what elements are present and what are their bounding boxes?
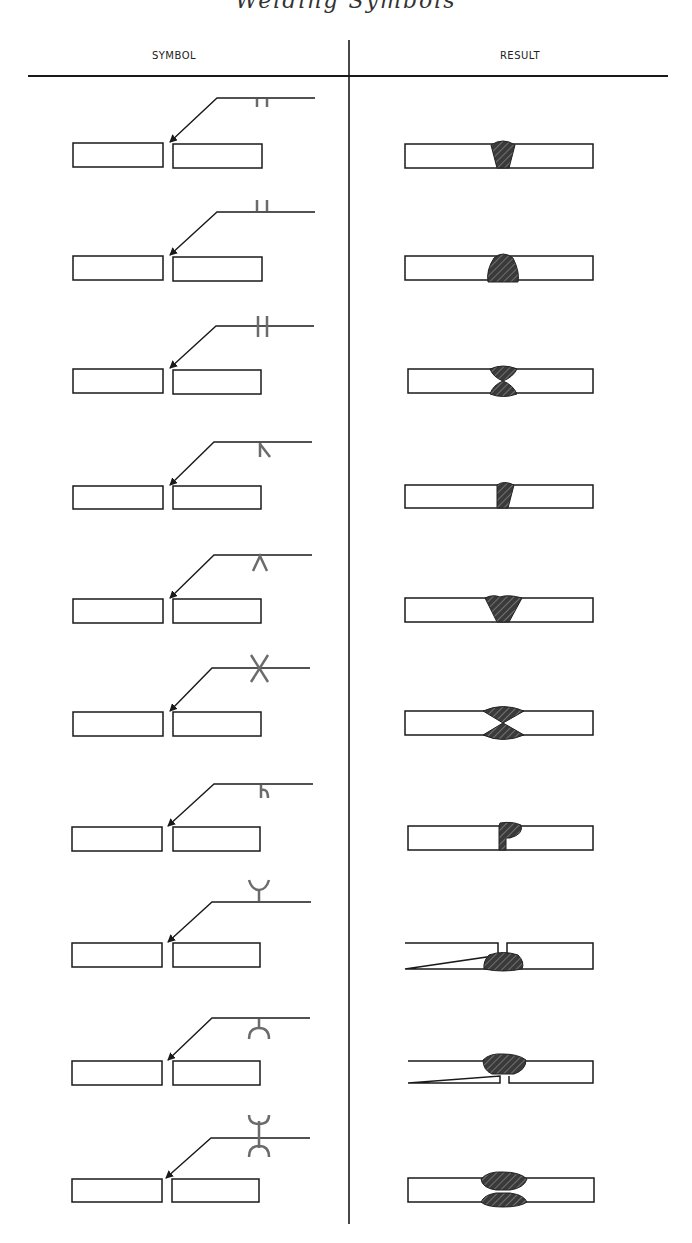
symbol-9: [72, 1018, 310, 1085]
result-1: [405, 141, 593, 168]
result-7: [408, 822, 593, 850]
result-9: [408, 1054, 593, 1083]
symbol-3: [73, 316, 314, 394]
welding-symbol-table: [0, 0, 692, 1243]
result-2: [405, 254, 593, 282]
result-8: [405, 943, 593, 971]
row-3: [73, 316, 593, 397]
j-groove-icon: [261, 785, 268, 798]
symbol-1: [73, 98, 315, 168]
result-6: [405, 707, 593, 740]
result-4: [405, 483, 593, 509]
symbol-2: [73, 200, 315, 281]
row-8: [72, 880, 593, 971]
symbol-8: [72, 880, 311, 967]
symbol-6: [73, 655, 310, 736]
v-groove-icon: [253, 556, 267, 571]
row-4: [73, 442, 593, 509]
square-groove-icon: [257, 99, 267, 107]
result-5: [405, 596, 593, 622]
u-groove-icon: [249, 1019, 269, 1039]
bevel-groove-icon: [260, 443, 270, 457]
row-6: [73, 655, 593, 740]
square-groove-other-side-icon: [257, 200, 267, 211]
row-10: [72, 1115, 594, 1207]
row-2: [73, 200, 593, 282]
symbol-7: [72, 784, 313, 851]
result-3: [408, 366, 593, 397]
row-9: [72, 1018, 593, 1085]
result-10: [408, 1172, 594, 1207]
symbol-4: [73, 442, 312, 509]
row-5: [73, 555, 593, 623]
flare-v-groove-icon: [249, 880, 269, 901]
double-u-groove-icon: [249, 1115, 269, 1157]
symbol-5: [73, 555, 312, 623]
row-7: [72, 784, 593, 851]
row-1: [73, 98, 593, 168]
symbol-10: [72, 1115, 310, 1202]
